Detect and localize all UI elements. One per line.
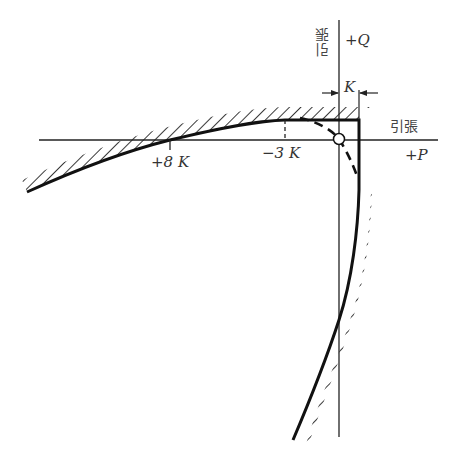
- interaction-diagram: [0, 0, 462, 461]
- tick-label-minus-3k: −3 K: [262, 146, 300, 161]
- horizontal-axis-label-text: 引張: [390, 119, 418, 133]
- horizontal-axis-symbol: +P: [405, 148, 428, 163]
- tick-label-plus-8k: +8 K: [151, 155, 189, 170]
- hatching-band: [22, 107, 372, 446]
- dashed-curve: [300, 118, 357, 176]
- vertical-axis-symbol: +Q: [345, 33, 370, 48]
- k-dimension-label: K: [344, 80, 355, 95]
- origin-marker: [334, 134, 345, 145]
- vertical-axis-label-text: 引張: [316, 27, 330, 57]
